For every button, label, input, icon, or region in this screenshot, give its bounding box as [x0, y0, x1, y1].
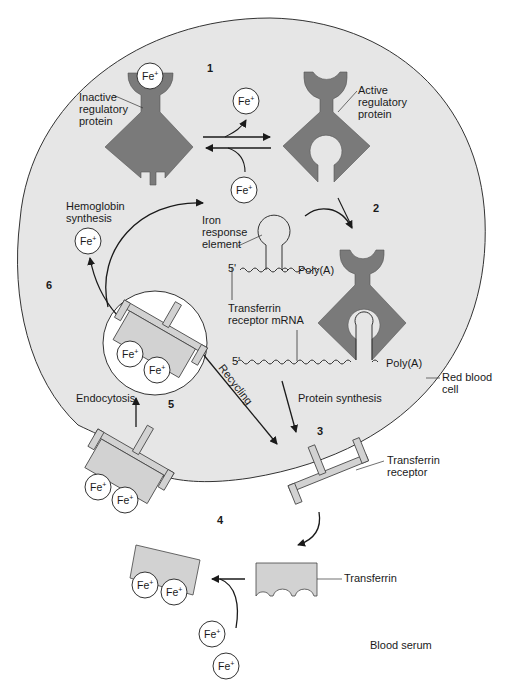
fe-ion-released: Fe+	[233, 88, 259, 114]
five-prime-label-2: 5'	[232, 355, 240, 367]
blood-serum-label: Blood serum	[370, 639, 432, 651]
step-number-4: 4	[217, 514, 224, 526]
fe-binding-arrow	[220, 579, 237, 628]
endocytosis-label: Endocytosis	[76, 392, 136, 404]
polya-label-2: Poly(A)	[386, 357, 422, 369]
polya-label-1: Poly(A)	[298, 264, 334, 276]
step-number-5: 5	[168, 398, 174, 410]
release-arrow	[298, 512, 320, 545]
step-number-6: 6	[46, 279, 52, 291]
fe-ion-membrane-2: Fe+	[112, 487, 138, 513]
red-blood-cell-label: Red blood cell	[442, 371, 495, 395]
fe-ion-transferrin-2: Fe+	[161, 579, 187, 605]
transferrin-label: Transferrin	[344, 572, 397, 584]
fe-ion-serum-1: Fe+	[199, 621, 225, 647]
step-number-3: 3	[317, 425, 323, 437]
fe-ion-membrane-1: Fe+	[85, 474, 111, 500]
fe-ion-binding: Fe+	[231, 177, 257, 203]
step-number-1: 1	[207, 62, 213, 74]
transferrin-receptor-label: Transferrin receptor	[387, 454, 443, 478]
fe-ion-transferrin-1: Fe+	[132, 572, 158, 598]
step-number-2: 2	[373, 202, 379, 214]
protein-synthesis-label: Protein synthesis	[298, 392, 382, 404]
transferrin-apo	[256, 563, 317, 596]
fe-ion-endosome-1: Fe+	[117, 341, 143, 367]
iron-regulation-diagram: Fe+ Inactive regulatory protein 1 Fe+ Fe…	[0, 0, 510, 691]
fe-ion-endosome-2: Fe+	[144, 357, 170, 383]
fe-ion-serum-2: Fe+	[213, 653, 239, 679]
fe-ion-hemoglobin: Fe+	[75, 228, 101, 254]
